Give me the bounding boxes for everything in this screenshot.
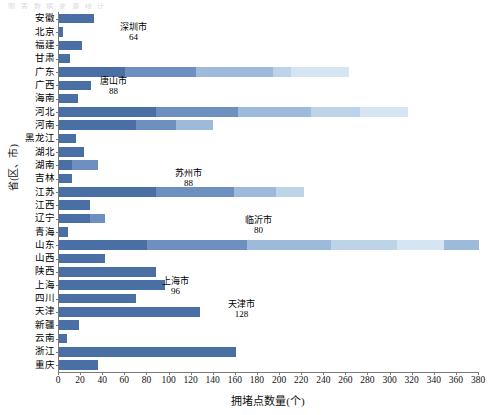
y-axis-category-label: 天津 (35, 305, 55, 318)
bar-row: 山东 (59, 239, 479, 252)
bar-segment (59, 267, 156, 277)
bar-segment (59, 94, 78, 104)
bar-segment (59, 294, 136, 304)
x-tick-label: 20 (75, 375, 85, 385)
city-annotation-label: 深圳市 (120, 22, 147, 32)
bar (59, 81, 91, 91)
bar-segment (59, 160, 72, 170)
x-tick-label: 280 (360, 375, 374, 385)
bar (59, 14, 94, 24)
bar-segment (125, 67, 196, 77)
y-axis-category-label: 四川 (35, 292, 55, 305)
x-tick-label: 0 (56, 375, 61, 385)
bar-segment (59, 227, 68, 237)
x-axis: 0204060801001201401601802002202402602803… (58, 372, 478, 386)
bar-segment (59, 334, 67, 344)
bar-segment (444, 240, 479, 250)
bar-segment (156, 187, 233, 197)
x-tick-label: 140 (206, 375, 220, 385)
bar-row: 甘肃 (59, 52, 479, 65)
y-axis-category-label: 湖南 (35, 159, 55, 172)
bar-segment (360, 107, 409, 117)
city-annotation-value: 88 (175, 178, 202, 188)
bar (59, 214, 105, 224)
bar-rows: 安徽北京福建甘肃广东广西海南河北河南黑龙江湖北湖南吉林江苏江西辽宁青海山东山西陕… (59, 12, 479, 372)
bar-segment (147, 240, 246, 250)
bar-segment (59, 200, 90, 210)
city-annotation-label: 临沂市 (245, 215, 272, 225)
city-annotation-label: 苏州市 (175, 168, 202, 178)
y-axis-category-label: 广西 (35, 79, 55, 92)
city-annotation-label: 唐山市 (100, 76, 127, 86)
bar-row: 山西 (59, 252, 479, 265)
y-axis-category-label: 甘肃 (35, 52, 55, 65)
y-axis-category-label: 浙江 (35, 345, 55, 358)
city-annotation-label: 天津市 (228, 299, 255, 309)
x-tick-label: 380 (471, 375, 485, 385)
city-annotation-value: 64 (120, 32, 147, 42)
city-annotation-value: 88 (100, 86, 127, 96)
x-tick-label: 120 (184, 375, 198, 385)
bar-row: 河北 (59, 105, 479, 118)
bar-segment (59, 307, 200, 317)
y-axis-category-label: 山西 (35, 252, 55, 265)
x-tick-label: 360 (449, 375, 463, 385)
bar-row: 黑龙江 (59, 132, 479, 145)
bar-row: 上海 (59, 279, 479, 292)
bar (59, 280, 165, 290)
x-tick-label: 340 (427, 375, 441, 385)
bar (59, 267, 156, 277)
bar (59, 200, 90, 210)
bar (59, 240, 479, 250)
y-axis-category-label: 黑龙江 (25, 132, 55, 145)
y-axis-category-label: 上海 (35, 279, 55, 292)
city-annotation-value: 80 (245, 225, 272, 235)
bar-segment (59, 240, 147, 250)
bar-segment (59, 360, 98, 370)
plot-area: 安徽北京福建甘肃广东广西海南河北河南黑龙江湖北湖南吉林江苏江西辽宁青海山东山西陕… (58, 12, 479, 373)
bar-row: 湖北 (59, 145, 479, 158)
city-annotation: 临沂市80 (245, 215, 272, 235)
bar-row: 浙江 (59, 345, 479, 358)
bar (59, 294, 136, 304)
y-axis-category-label: 青海 (35, 226, 55, 239)
x-tick-label: 260 (338, 375, 352, 385)
x-axis-title: 拥堵点数量(个) (58, 392, 478, 408)
y-axis-title: 省(区、市) (5, 128, 20, 208)
bar (59, 307, 200, 317)
bar-segment (291, 67, 348, 77)
bar-row: 重庆 (59, 359, 479, 372)
bar-row: 江苏 (59, 185, 479, 198)
x-tick-label: 80 (142, 375, 152, 385)
x-tick-label: 320 (405, 375, 419, 385)
bar (59, 254, 105, 264)
bar-row: 四川 (59, 292, 479, 305)
bar (59, 360, 98, 370)
bar-segment (234, 187, 276, 197)
y-axis-category-label: 新疆 (35, 319, 55, 332)
city-annotation-value: 96 (162, 286, 189, 296)
bar-segment (59, 174, 72, 184)
bar (59, 334, 67, 344)
bar-row: 江西 (59, 199, 479, 212)
city-annotation: 深圳市64 (120, 22, 147, 42)
y-axis-category-label: 江苏 (35, 186, 55, 199)
bar-segment (311, 107, 360, 117)
bar-segment (331, 240, 397, 250)
bar-row: 新疆 (59, 319, 479, 332)
x-tick-label: 60 (120, 375, 130, 385)
city-annotation: 唐山市88 (100, 76, 127, 96)
bar (59, 187, 304, 197)
bar (59, 147, 84, 157)
bar (59, 120, 213, 130)
bar-segment (397, 240, 443, 250)
city-annotation: 上海市96 (162, 276, 189, 296)
bar-row: 河南 (59, 119, 479, 132)
x-tick-label: 200 (272, 375, 286, 385)
bar-segment (59, 134, 76, 144)
bar (59, 227, 68, 237)
bar-segment (156, 107, 238, 117)
bar (59, 347, 236, 357)
bar-segment (273, 67, 291, 77)
top-note: 图 表 数 据 来 源 统 计 (8, 1, 158, 9)
